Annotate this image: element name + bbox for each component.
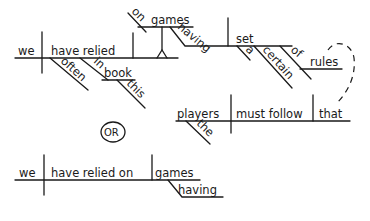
rules-word: rules <box>310 55 338 69</box>
b-subject-word: we <box>19 166 35 180</box>
sentence-diagram: we have relied often in book this on gam… <box>0 0 370 221</box>
diagram-version-b: we have relied on games having <box>15 155 223 197</box>
or-separator: OR <box>101 122 125 142</box>
that-word: that <box>319 107 343 121</box>
book-word: book <box>104 66 132 80</box>
relative-connector <box>328 44 354 104</box>
b-object-word: games <box>155 166 194 180</box>
stilt-fork <box>157 50 167 58</box>
b-having-word: having <box>178 183 217 197</box>
or-label: OR <box>104 127 119 138</box>
diagram-version-a: we have relied often in book this on gam… <box>15 4 354 144</box>
having-word: having <box>175 20 214 56</box>
subject-word: we <box>18 44 34 58</box>
on-word: on <box>129 4 149 24</box>
must-follow-word: must follow <box>236 107 303 121</box>
players-word: players <box>177 107 219 121</box>
verb-word: have relied <box>51 44 115 58</box>
b-verb-word: have relied on <box>51 166 133 180</box>
